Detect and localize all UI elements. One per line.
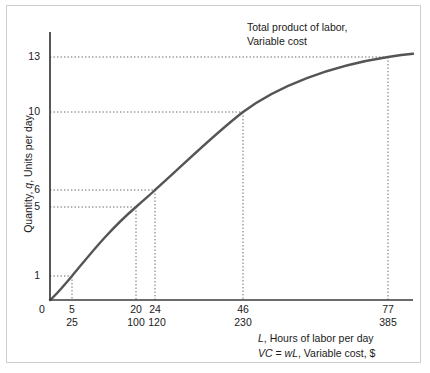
x-tick-label-labor-77: 77 (368, 303, 408, 315)
figure-container: Quantity, q, Units per day 13 10 6 5 1 0… (0, 0, 430, 373)
y-axis-label: Quantity, q, Units per day (22, 94, 34, 254)
x-tick-label-labor-5: 5 (52, 303, 92, 315)
y-tick-label-6: 6 (14, 183, 40, 195)
origin-label: 0 (39, 303, 45, 315)
x-axis-label-cost-wl: wL (285, 347, 298, 359)
y-tick-label-13: 13 (14, 50, 40, 62)
x-tick-label-cost-25: 25 (52, 316, 92, 328)
y-tick-label-5: 5 (14, 200, 40, 212)
x-axis-label-cost-eq: = (273, 347, 285, 359)
x-tick-label-labor-46: 46 (223, 303, 263, 315)
x-tick-label-cost-120: 120 (137, 316, 177, 328)
x-axis-label-labor: L, Hours of labor per day (258, 331, 375, 346)
x-axis-label-cost-vc: VC (258, 347, 273, 359)
x-tick-label-labor-24: 24 (135, 303, 175, 315)
curve-annotation-line1: Total product of labor, (247, 20, 347, 34)
x-tick-label-cost-385: 385 (368, 316, 408, 328)
curve-annotation: Total product of labor, Variable cost (247, 20, 347, 48)
x-tick-label-cost-230: 230 (223, 316, 263, 328)
y-tick-label-10: 10 (14, 105, 40, 117)
x-axis-labels: L, Hours of labor per day VC = wL, Varia… (258, 331, 375, 360)
x-axis-label-cost-rest: , Variable cost, $ (298, 347, 375, 359)
curve-annotation-line2: Variable cost (247, 34, 347, 48)
y-tick-label-1: 1 (14, 269, 40, 281)
total-product-curve (50, 54, 413, 300)
y-axis-label-post: , Units per day (22, 115, 34, 183)
x-axis-label-cost: VC = wL, Variable cost, $ (258, 346, 375, 361)
x-axis-label-labor-rest: , Hours of labor per day (264, 332, 374, 344)
guide-lines (50, 57, 388, 300)
